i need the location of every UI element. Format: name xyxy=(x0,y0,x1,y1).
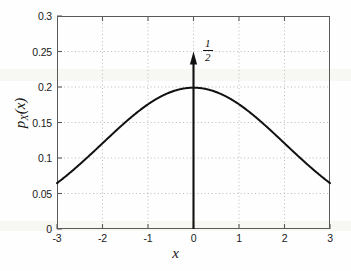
fraction-denominator: 2 xyxy=(203,52,213,63)
x-tick-label: -1 xyxy=(144,232,153,244)
data-layer xyxy=(0,0,351,271)
fraction-numerator: 1 xyxy=(203,38,213,49)
y-tick-label: 0.15 xyxy=(6,117,52,129)
figure-canvas: pX(x) x 1 2 00.050.10.150.20.250.3-3-2-1… xyxy=(0,0,351,271)
y-tick-label: 0.05 xyxy=(6,188,52,200)
y-tick-label: 0 xyxy=(6,223,52,235)
x-tick-label: 2 xyxy=(282,232,288,244)
x-tick-label: 3 xyxy=(327,232,333,244)
x-tick-label: 1 xyxy=(236,232,242,244)
impulse-weight-label: 1 2 xyxy=(203,38,213,63)
x-tick-label: 0 xyxy=(191,232,197,244)
y-tick-label: 0.1 xyxy=(6,152,52,164)
y-tick-label: 0.25 xyxy=(6,46,52,58)
y-tick-label: 0.2 xyxy=(6,81,52,93)
y-tick-label: 0.3 xyxy=(6,10,52,22)
x-axis-label: x xyxy=(0,245,351,262)
x-tick-label: -2 xyxy=(98,232,107,244)
x-tick-label: -3 xyxy=(53,232,62,244)
